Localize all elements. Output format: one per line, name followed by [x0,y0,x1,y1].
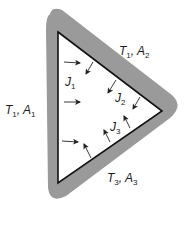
radiosity-subscript: 2 [121,98,125,107]
surface-label-2: T1, A2 [119,45,150,60]
area-symbol: A [125,171,133,185]
area-subscript: 2 [145,51,149,60]
radiosity-subscript: 1 [71,82,75,91]
surface-label-3: T3, A3 [107,172,138,187]
radiosity-label-1: J1 [65,76,75,91]
radiosity-subscript: 3 [116,127,120,136]
area-subscript: 3 [133,178,137,187]
surface-label-1: T1, A1 [5,104,36,119]
area-symbol: A [137,44,145,58]
area-symbol: A [23,103,31,117]
radiosity-label-3: J3 [110,121,120,136]
radiosity-label-2: J2 [115,92,125,107]
area-subscript: 1 [31,110,35,119]
